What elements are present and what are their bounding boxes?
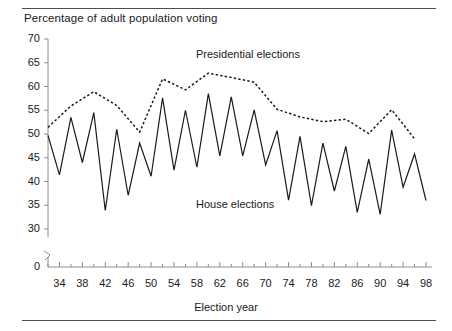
series-line-presidential-elections	[48, 73, 415, 139]
figure-container: Percentage of adult population voting 30…	[0, 0, 452, 331]
y-tick-label: 30	[14, 223, 40, 234]
y-tick-label: 35	[14, 199, 40, 210]
y-tick-label: 50	[14, 128, 40, 139]
series-label-house: House elections	[196, 198, 274, 210]
y-tick-label: 45	[14, 152, 40, 163]
series-line-house-elections	[48, 94, 426, 215]
y-tick-label-zero: 0	[14, 261, 40, 272]
series-label-presidential: Presidential elections	[196, 48, 300, 60]
y-tick-label: 55	[14, 104, 40, 115]
x-axis-title: Election year	[0, 301, 452, 313]
y-tick-label: 65	[14, 57, 40, 68]
y-tick-label: 40	[14, 176, 40, 187]
y-tick-label: 70	[14, 33, 40, 44]
x-tick-label: 98	[411, 278, 441, 289]
y-tick-label: 60	[14, 81, 40, 92]
